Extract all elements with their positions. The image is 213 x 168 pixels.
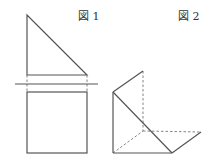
figure-2: 図 2 <box>113 10 201 153</box>
plan-square <box>27 92 87 153</box>
figure-2-label: 図 2 <box>178 10 200 23</box>
figure-1-label: 図 1 <box>78 10 100 23</box>
hidden-edge-back-left <box>113 131 143 153</box>
edge-top-slant <box>113 71 143 92</box>
elevation-triangle <box>27 15 87 75</box>
edge-right-slant <box>172 132 201 153</box>
figure-1: 図 1 <box>15 10 100 153</box>
edge-diagonal <box>113 92 172 153</box>
diagram-canvas: 図 1 図 2 <box>0 0 213 168</box>
